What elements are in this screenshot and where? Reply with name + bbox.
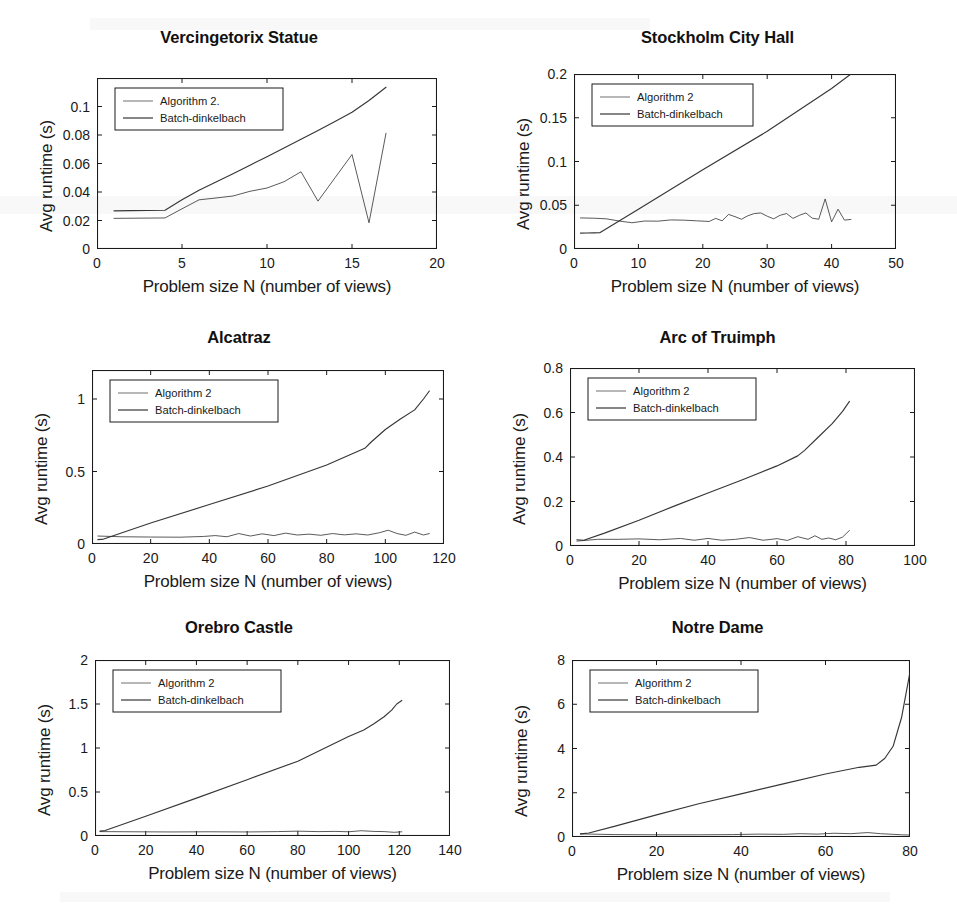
y-axis-label: Avg runtime (s) (510, 413, 530, 525)
y-tick-label: 0.1 (30, 99, 90, 115)
plot-area: Algorithm 2Batch-dinkelbach00.050.10.150… (574, 74, 896, 249)
x-tick-label: 20 (649, 843, 665, 859)
legend-label: Algorithm 2 (158, 677, 215, 689)
y-axis-label: Avg runtime (s) (32, 413, 52, 525)
y-axis-label: Avg runtime (s) (37, 120, 57, 232)
x-tick-label: 0 (566, 552, 574, 568)
chart-panel: Stockholm City HallAlgorithm 2Batch-dink… (478, 26, 957, 326)
x-tick-label: 0 (91, 842, 99, 858)
chart-panel: Orebro CastleAlgorithm 2Batch-dinkelbach… (0, 616, 478, 906)
x-tick-label: 60 (818, 843, 834, 859)
data-series-line (577, 401, 850, 540)
chart-legend: Algorithm 2Batch-dinkelbach (590, 670, 758, 712)
x-tick-label: 15 (344, 255, 360, 271)
x-tick-label: 20 (143, 550, 159, 566)
y-tick-label: 2 (28, 652, 88, 668)
legend-label: Algorithm 2 (633, 385, 690, 397)
x-axis-label: Problem size N (number of views) (92, 572, 444, 592)
chart-title: Notre Dame (478, 616, 957, 638)
plot-area: Algorithm 2.Batch-dinkelbach00.020.040.0… (97, 78, 437, 249)
y-tick-label: 0.2 (507, 66, 567, 82)
legend-label: Algorithm 2 (637, 91, 694, 103)
x-tick-label: 20 (631, 552, 647, 568)
plot-area: Algorithm 2Batch-dinkelbach0246802040608… (572, 660, 910, 837)
y-tick-label: 0 (25, 536, 85, 552)
legend-label: Algorithm 2 (635, 677, 692, 689)
chart-panel: Vercingetorix StatueAlgorithm 2.Batch-di… (0, 26, 478, 326)
x-tick-label: 50 (888, 255, 904, 271)
y-axis-label: Avg runtime (s) (35, 704, 55, 816)
chart-title: Alcatraz (0, 326, 478, 348)
x-tick-label: 5 (178, 255, 186, 271)
x-tick-label: 60 (239, 842, 255, 858)
chart-legend: Algorithm 2.Batch-dinkelbach (115, 88, 283, 130)
plot-area: Algorithm 2Batch-dinkelbach00.511.520204… (95, 660, 450, 836)
data-series-line (580, 833, 910, 835)
x-tick-label: 30 (759, 255, 775, 271)
x-tick-label: 60 (260, 550, 276, 566)
x-tick-label: 0 (570, 255, 578, 271)
x-axis-label: Problem size N (number of views) (97, 277, 437, 297)
plot-canvas: Algorithm 2Batch-dinkelbach (92, 370, 444, 544)
x-tick-label: 20 (138, 842, 154, 858)
x-tick-label: 40 (189, 842, 205, 858)
x-tick-label: 0 (88, 550, 96, 566)
x-tick-label: 100 (374, 550, 397, 566)
figure-grid: Vercingetorix StatueAlgorithm 2.Batch-di… (0, 0, 957, 880)
x-tick-label: 80 (838, 552, 854, 568)
plot-canvas: Algorithm 2.Batch-dinkelbach (97, 78, 437, 249)
x-tick-label: 80 (290, 842, 306, 858)
x-tick-label: 100 (337, 842, 360, 858)
x-tick-label: 60 (769, 552, 785, 568)
chart-title: Vercingetorix Statue (0, 26, 478, 48)
chart-legend: Algorithm 2Batch-dinkelbach (110, 380, 278, 422)
y-tick-label: 0 (505, 829, 565, 845)
x-tick-label: 40 (700, 552, 716, 568)
legend-label: Batch-dinkelbach (635, 694, 721, 706)
data-series-line (577, 530, 850, 541)
y-tick-label: 8 (505, 652, 565, 668)
x-tick-label: 20 (429, 255, 445, 271)
legend-label: Batch-dinkelbach (637, 108, 723, 120)
legend-label: Batch-dinkelbach (158, 694, 244, 706)
y-tick-label: 1 (25, 391, 85, 407)
chart-panel: AlcatrazAlgorithm 2Batch-dinkelbach00.51… (0, 326, 478, 616)
chart-legend: Algorithm 2Batch-dinkelbach (592, 84, 753, 126)
plot-canvas: Algorithm 2Batch-dinkelbach (572, 660, 910, 837)
y-tick-label: 0 (503, 538, 563, 554)
legend-label: Batch-dinkelbach (633, 402, 719, 414)
x-tick-label: 80 (902, 843, 918, 859)
x-axis-label: Problem size N (number of views) (574, 277, 896, 297)
x-tick-label: 0 (568, 843, 576, 859)
x-tick-label: 100 (903, 552, 926, 568)
x-axis-label: Problem size N (number of views) (95, 864, 450, 884)
y-axis-label: Avg runtime (s) (512, 705, 532, 817)
chart-legend: Algorithm 2Batch-dinkelbach (588, 378, 756, 420)
x-tick-label: 140 (438, 842, 461, 858)
legend-label: Algorithm 2 (155, 387, 212, 399)
y-tick-label: 0 (28, 828, 88, 844)
legend-label: Batch-dinkelbach (160, 112, 246, 124)
x-tick-label: 120 (432, 550, 455, 566)
x-tick-label: 20 (695, 255, 711, 271)
plot-canvas: Algorithm 2Batch-dinkelbach (95, 660, 450, 836)
data-series-line (114, 133, 386, 222)
data-series-line (100, 700, 402, 831)
chart-title: Stockholm City Hall (478, 26, 957, 48)
x-tick-label: 0 (93, 255, 101, 271)
plot-canvas: Algorithm 2Batch-dinkelbach (570, 368, 915, 546)
y-tick-label: 0 (507, 241, 567, 257)
legend-label: Batch-dinkelbach (155, 404, 241, 416)
x-tick-label: 80 (319, 550, 335, 566)
x-tick-label: 10 (259, 255, 275, 271)
chart-legend: Algorithm 2Batch-dinkelbach (113, 670, 281, 712)
chart-title: Arc of Truimph (478, 326, 957, 348)
x-tick-label: 120 (388, 842, 411, 858)
x-tick-label: 40 (824, 255, 840, 271)
legend-label: Algorithm 2. (160, 95, 220, 107)
chart-panel: Notre DameAlgorithm 2Batch-dinkelbach024… (478, 616, 957, 906)
x-tick-label: 40 (733, 843, 749, 859)
plot-area: Algorithm 2Batch-dinkelbach00.5102040608… (92, 370, 444, 544)
x-axis-label: Problem size N (number of views) (570, 574, 915, 594)
chart-panel: Arc of TruimphAlgorithm 2Batch-dinkelbac… (478, 326, 957, 616)
